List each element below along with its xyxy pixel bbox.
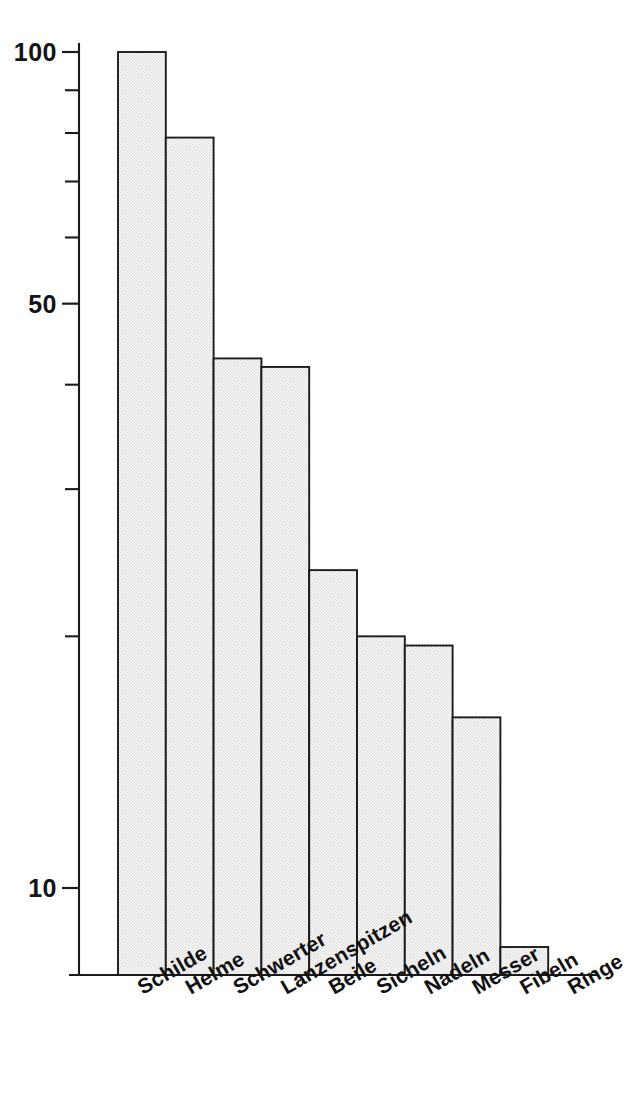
y-tick-label-10: 10 (28, 874, 57, 902)
y-tick-label-100: 100 (14, 38, 57, 66)
bar-lanzenspitzen (261, 367, 309, 975)
bar-schilde (118, 52, 166, 975)
bar-schwerter (214, 358, 262, 975)
bar-chart-figure: 1005010 SchildeHelmeSchwerterLanzenspitz… (0, 0, 638, 1108)
bar-helme (166, 138, 214, 975)
bar-beile (309, 570, 357, 975)
y-tick-label-50: 50 (28, 290, 57, 318)
y-axis-ticks: 1005010 (14, 38, 80, 902)
bar-messer (453, 717, 501, 975)
chart-canvas: 1005010 SchildeHelmeSchwerterLanzenspitz… (0, 0, 638, 1108)
bars-group (118, 52, 548, 975)
